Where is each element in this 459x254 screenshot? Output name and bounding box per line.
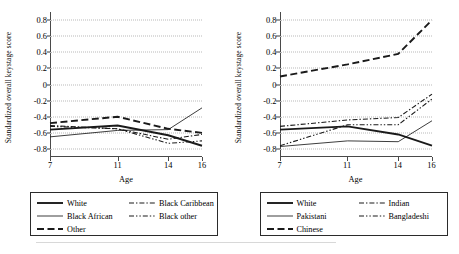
y-axis-title-left: Standardized overall keystage score <box>2 0 16 175</box>
x-axis-title-right: Age <box>280 175 432 184</box>
plot-area-wrapper-right: 0.80.60.40.20-0.2-0.4-0.6-0.87111416 Age <box>247 4 453 190</box>
legend-line-swatch <box>359 198 385 208</box>
plot-area-right: 0.80.60.40.20-0.2-0.4-0.6-0.87111416 <box>280 12 432 157</box>
y-tick-label: 0.8 <box>266 16 279 25</box>
plot-area-left: 0.80.60.40.20-0.2-0.4-0.6-0.87111416 <box>50 12 202 157</box>
legend-label: White <box>297 199 317 208</box>
legend-label: Black other <box>159 212 197 221</box>
x-axis-title-left: Age <box>50 175 202 184</box>
y-tick-label: -0.4 <box>263 112 279 121</box>
legends: WhiteBlack CaribbeanBlack AfricanBlack o… <box>0 190 459 240</box>
y-tick-label: 0.2 <box>37 64 50 73</box>
y-axis-title-right: Standardized overall keystage score <box>232 0 246 175</box>
y-tick-label: 0 <box>272 80 279 89</box>
y-tick-label: -0.6 <box>263 128 279 137</box>
y-tick-label: 0.4 <box>37 48 50 57</box>
legend-line-swatch <box>129 211 155 221</box>
legend-line-swatch <box>267 198 293 208</box>
legend-slot-left: WhiteBlack CaribbeanBlack AfricanBlack o… <box>0 190 230 240</box>
legend-line-swatch <box>359 211 385 221</box>
y-tick-label: -0.6 <box>34 128 50 137</box>
footer-fragment <box>0 240 459 254</box>
y-tick-label: 0.8 <box>37 16 50 25</box>
legend-item: Other <box>37 223 129 235</box>
legend-item: Indian <box>359 197 451 209</box>
legend-line-swatch <box>267 224 293 234</box>
y-tick-label: 0.6 <box>37 32 50 41</box>
x-tick-label: 16 <box>198 161 206 170</box>
y-tick-label: -0.8 <box>263 144 279 153</box>
y-tick-label: 0 <box>43 80 50 89</box>
x-tick-label: 7 <box>48 161 52 170</box>
legend-slot-right: WhiteIndianPakistaniBangladeshiChinese <box>230 190 459 240</box>
y-tick-label: -0.8 <box>34 144 50 153</box>
x-tick-label: 11 <box>343 161 351 170</box>
x-tick-label: 16 <box>427 161 435 170</box>
y-tick-label: -0.4 <box>34 112 50 121</box>
legend-label: Black Caribbean <box>159 199 214 208</box>
y-tick-label: 0.2 <box>266 64 279 73</box>
legend-item: Black Caribbean <box>129 197 221 209</box>
chart-panel-left: Standardized overall keystage score 0.80… <box>0 0 230 190</box>
legend-item: White <box>267 197 359 209</box>
plot-area-wrapper-left: 0.80.60.40.20-0.2-0.4-0.6-0.87111416 Age <box>17 4 223 190</box>
legend-line-swatch <box>267 211 293 221</box>
legend-item: White <box>37 197 129 209</box>
legend-label: White <box>67 199 87 208</box>
legend-left: WhiteBlack CaribbeanBlack AfricanBlack o… <box>30 192 218 236</box>
legend-label: Pakistani <box>297 212 327 221</box>
y-tick-label: 0.4 <box>266 48 279 57</box>
legend-right: WhiteIndianPakistaniBangladeshiChinese <box>260 192 448 236</box>
legend-line-swatch <box>37 224 63 234</box>
figure-panels: Standardized overall keystage score 0.80… <box>0 0 459 190</box>
series-line <box>280 20 432 76</box>
legend-item: Black other <box>129 210 221 222</box>
x-tick-label: 14 <box>164 161 172 170</box>
x-tick-label: 14 <box>394 161 402 170</box>
y-tick-label: -0.2 <box>34 96 50 105</box>
legend-item: Bangladeshi <box>359 210 451 222</box>
legend-item: Black African <box>37 210 129 222</box>
legend-label: Black African <box>67 212 113 221</box>
x-tick-label: 11 <box>114 161 122 170</box>
legend-line-swatch <box>129 198 155 208</box>
y-tick-label: 0.6 <box>266 32 279 41</box>
legend-label: Chinese <box>297 225 323 234</box>
footer-rule <box>36 242 336 243</box>
x-tick-label: 7 <box>277 161 281 170</box>
legend-item: Chinese <box>267 223 359 235</box>
series-layer <box>50 12 202 157</box>
series-line <box>280 94 432 126</box>
y-tick-label: -0.2 <box>263 96 279 105</box>
chart-panel-right: Standardized overall keystage score 0.80… <box>230 0 459 190</box>
legend-label: Indian <box>389 199 410 208</box>
series-line <box>50 108 202 137</box>
legend-label: Bangladeshi <box>389 212 429 221</box>
legend-line-swatch <box>37 211 63 221</box>
series-line <box>280 126 432 145</box>
legend-item: Pakistani <box>267 210 359 222</box>
series-layer <box>280 12 432 157</box>
legend-label: Other <box>67 225 86 234</box>
legend-line-swatch <box>37 198 63 208</box>
